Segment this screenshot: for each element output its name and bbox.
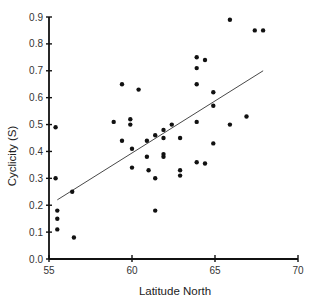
data-point [53, 176, 57, 180]
y-tick-label: 0.9 [29, 12, 43, 23]
x-tick-label: 70 [292, 265, 304, 276]
data-point [153, 176, 157, 180]
y-tick-label: 0.0 [29, 254, 43, 265]
data-point [130, 147, 134, 151]
data-point [178, 173, 182, 177]
data-point [161, 128, 165, 132]
y-tick-label: 0.8 [29, 38, 43, 49]
data-points [53, 18, 265, 240]
data-point [195, 55, 199, 59]
y-tick-label: 0.6 [29, 92, 43, 103]
y-tick-label: 0.7 [29, 65, 43, 76]
x-tick-label: 60 [126, 265, 138, 276]
data-point [211, 141, 215, 145]
regression-line [57, 71, 263, 200]
data-point [170, 122, 174, 126]
data-point [55, 208, 59, 212]
data-point [161, 136, 165, 140]
y-axis: 0.00.10.20.30.40.50.60.70.80.9 [29, 12, 52, 265]
data-point [211, 104, 215, 108]
data-point [112, 120, 116, 124]
data-point [153, 208, 157, 212]
data-point [145, 155, 149, 159]
y-tick-label: 0.1 [29, 227, 43, 238]
data-point [211, 90, 215, 94]
data-point [145, 139, 149, 143]
data-point [128, 122, 132, 126]
data-point [195, 82, 199, 86]
data-point [70, 190, 74, 194]
data-point [228, 122, 232, 126]
data-point [55, 227, 59, 231]
data-point [178, 136, 182, 140]
data-point [261, 28, 265, 32]
y-tick-label: 0.3 [29, 173, 43, 184]
x-axis-label: Latitude North [139, 285, 211, 297]
data-point [53, 125, 57, 129]
x-axis: 55606570 [43, 255, 304, 276]
data-point [146, 168, 150, 172]
x-tick-label: 65 [209, 265, 221, 276]
data-point [195, 120, 199, 124]
y-tick-label: 0.4 [29, 146, 43, 157]
data-point [178, 168, 182, 172]
x-tick-label: 55 [43, 265, 55, 276]
data-point [228, 18, 232, 22]
data-point [203, 161, 207, 165]
y-tick-label: 0.5 [29, 119, 43, 130]
y-axis-label: Cyclicity (S) [6, 125, 18, 186]
data-point [120, 82, 124, 86]
data-point [130, 165, 134, 169]
data-point [136, 87, 140, 91]
data-point [72, 235, 76, 239]
data-point [55, 217, 59, 221]
data-point [195, 66, 199, 70]
y-tick-label: 0.2 [29, 200, 43, 211]
data-point [161, 155, 165, 159]
data-point [120, 139, 124, 143]
data-point [203, 58, 207, 62]
scatter-chart: 0.00.10.20.30.40.50.60.70.80.9 55606570 … [0, 0, 315, 305]
data-point [244, 114, 248, 118]
data-point [253, 28, 257, 32]
data-point [153, 133, 157, 137]
data-point [128, 117, 132, 121]
data-point [195, 160, 199, 164]
